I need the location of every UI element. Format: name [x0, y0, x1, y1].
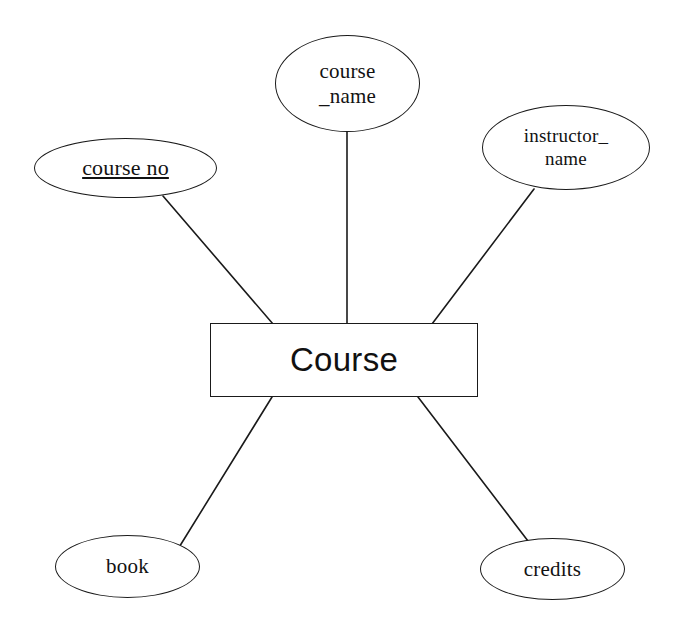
attribute-instructor-name-label: instructor_ name [524, 125, 609, 170]
attribute-credits-label: credits [524, 557, 581, 582]
edge-credits [418, 397, 528, 541]
attribute-course-name-label: course _name [319, 59, 376, 109]
attribute-course-name[interactable]: course _name [275, 35, 420, 132]
entity-course[interactable]: Course [210, 323, 478, 397]
edge-instructor-name [432, 189, 534, 324]
attribute-course-no-label: course no [82, 155, 169, 181]
attribute-book-label: book [106, 554, 149, 579]
entity-course-label: Course [290, 341, 398, 379]
edge-course-no [163, 196, 273, 324]
attribute-course-no[interactable]: course no [34, 138, 217, 198]
edge-book [178, 397, 272, 549]
er-diagram-canvas: course nocourse _nameinstructor_ nameboo… [0, 0, 682, 628]
attribute-credits[interactable]: credits [480, 538, 625, 600]
attribute-instructor-name[interactable]: instructor_ name [482, 105, 650, 190]
attribute-book[interactable]: book [55, 535, 200, 598]
